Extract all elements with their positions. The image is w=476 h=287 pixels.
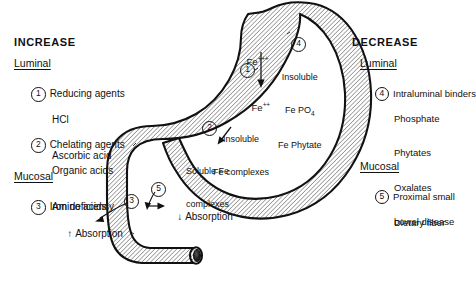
phosphate-subscript: 4 bbox=[311, 110, 315, 117]
increase-entry-1-label: Reducing agents bbox=[50, 88, 125, 100]
decrease-heading: DECREASE bbox=[352, 36, 418, 49]
decrease-entry-5: 5Proximal small bowel disease bbox=[364, 178, 455, 250]
marker-3: 3 bbox=[31, 200, 46, 215]
ferrous-charge: ++ bbox=[263, 101, 270, 108]
callout-3: 3 bbox=[124, 194, 139, 209]
fe-phosphate-text: Fe PO bbox=[285, 105, 311, 115]
soluble-complexes-line-1: Soluble Fe bbox=[186, 166, 229, 177]
increase-heading: INCREASE bbox=[14, 36, 76, 49]
insoluble-salts-line-3: Fe Phytate bbox=[278, 140, 322, 151]
decreased-absorption-text: Absorption bbox=[182, 211, 233, 222]
decrease-entry-4-sub-1: Phytates bbox=[364, 147, 476, 159]
marker-1: 1 bbox=[31, 87, 46, 102]
callout-1: 1 bbox=[240, 63, 255, 78]
insoluble-iron-salts-label: Insoluble Fe PO4 Fe Phytate bbox=[278, 50, 322, 172]
decrease-entry-4-sub-0: Phosphate bbox=[364, 113, 476, 125]
marker-5: 5 bbox=[375, 190, 390, 205]
increased-absorption-label: ↑Absorption bbox=[56, 216, 123, 253]
decrease-entry-4-label: Intraluminal binders bbox=[393, 88, 476, 100]
decrease-luminal-subheading: Luminal bbox=[360, 57, 397, 70]
decrease-mucosal-subheading: Mucosal bbox=[360, 160, 399, 173]
increase-luminal-subheading: Luminal bbox=[14, 57, 51, 70]
increase-entry-3-label: Iron deficiency bbox=[50, 201, 114, 213]
marker-4: 4 bbox=[375, 87, 390, 102]
decrease-entry-5-label: Proximal small bbox=[393, 191, 455, 203]
callout-5: 5 bbox=[151, 182, 166, 197]
decreased-absorption-label: ↓Absorption bbox=[166, 199, 233, 236]
increased-absorption-text: Absorption bbox=[72, 228, 123, 239]
marker-2: 2 bbox=[31, 138, 46, 153]
insoluble-salts-line-2: Fe PO4 bbox=[278, 105, 322, 118]
insoluble-salts-line-1: Insoluble bbox=[278, 72, 322, 83]
ferric-charge: +++ bbox=[258, 55, 269, 62]
increase-mucosal-subheading: Mucosal bbox=[14, 170, 53, 183]
increase-entry-2-label: Chelating agents bbox=[50, 139, 125, 151]
increase-entry-1-sub-0: HCl bbox=[20, 114, 125, 126]
decrease-entry-5-sub-0: bowel disease bbox=[364, 216, 455, 228]
